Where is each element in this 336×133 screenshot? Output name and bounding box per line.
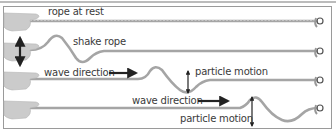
- label-shake-rope: shake rope: [73, 36, 126, 47]
- rope-wave-diagram: rope at rest shake rope wave direction p…: [0, 0, 336, 133]
- label-particle-motion: particle motion: [195, 66, 268, 77]
- label-rope-at-rest: rope at rest: [48, 6, 104, 17]
- label-particle-motion: particle motion: [180, 113, 253, 124]
- label-wave-direction: wave direction: [44, 67, 115, 78]
- label-wave-direction: wave direction: [132, 95, 203, 106]
